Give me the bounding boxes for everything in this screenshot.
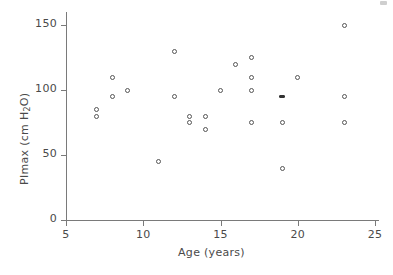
data-point [172, 94, 177, 99]
data-point [249, 55, 254, 60]
y-tick [61, 25, 66, 26]
x-tick-label: 25 [361, 228, 389, 241]
y-axis-title: PImax (cm H2O) [18, 93, 32, 185]
y-tick-label: 150 [35, 17, 57, 30]
x-axis-line [66, 220, 379, 221]
y-axis-title-post: O) [18, 93, 31, 107]
y-tick-label: 0 [50, 212, 57, 225]
data-point [280, 166, 285, 171]
data-point [110, 94, 115, 99]
data-point [342, 23, 347, 28]
data-point [218, 88, 223, 93]
x-tick-label: 5 [52, 228, 80, 241]
data-point [187, 114, 192, 119]
data-point [279, 95, 285, 98]
x-tick-label: 15 [207, 228, 235, 241]
data-point [203, 127, 208, 132]
y-tick [61, 90, 66, 91]
y-tick [61, 155, 66, 156]
x-tick [66, 221, 67, 226]
data-point [172, 49, 177, 54]
x-tick-label: 10 [129, 228, 157, 241]
data-point [249, 120, 254, 125]
data-point [280, 120, 285, 125]
data-point [295, 75, 300, 80]
data-point [203, 114, 208, 119]
data-point [94, 114, 99, 119]
y-axis-line [66, 12, 67, 220]
y-tick-label: 50 [42, 147, 57, 160]
data-point [249, 75, 254, 80]
data-point [156, 159, 161, 164]
data-point [187, 120, 192, 125]
data-point [342, 120, 347, 125]
y-tick-label: 100 [35, 82, 57, 95]
data-point [94, 107, 99, 112]
x-axis-title: Age (years) [0, 246, 393, 259]
x-tick [221, 221, 222, 226]
data-point [233, 62, 238, 67]
x-tick [298, 221, 299, 226]
data-point [125, 88, 130, 93]
cropped-artifact-mark [380, 1, 387, 5]
data-point [249, 88, 254, 93]
x-tick-label: 20 [284, 228, 312, 241]
x-tick [375, 221, 376, 226]
y-axis-title-pre: PImax (cm H [18, 112, 31, 185]
y-axis-title-subscript: 2 [23, 106, 32, 111]
data-point [342, 94, 347, 99]
data-point [110, 75, 115, 80]
x-tick [143, 221, 144, 226]
scatter-plot-figure: 050100150 510152025 Age (years) PImax (c… [0, 0, 393, 275]
